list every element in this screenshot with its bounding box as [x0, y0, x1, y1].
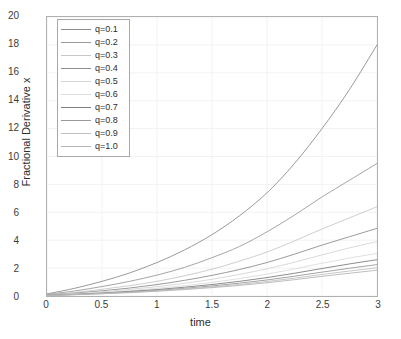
- figure: 02468101214161820 00.511.522.53 time Fra…: [0, 0, 401, 339]
- legend-label: q=0.6: [95, 90, 118, 99]
- x-tick-label: 0.5: [81, 300, 121, 310]
- legend-label: q=1.0: [95, 142, 118, 151]
- legend-line-swatch: [61, 120, 91, 121]
- x-axis-label: time: [0, 316, 401, 328]
- series-line-q06: [47, 253, 377, 295]
- legend-item[interactable]: q=0.1: [61, 23, 126, 36]
- x-tick-label: 1.5: [192, 300, 232, 310]
- legend-label: q=0.7: [95, 103, 118, 112]
- legend-item[interactable]: q=0.2: [61, 36, 126, 49]
- y-axis-label: Fractional Derivative x: [20, 42, 32, 222]
- y-tick-label: 18: [0, 39, 19, 49]
- legend-line-swatch: [61, 42, 91, 43]
- legend-label: q=0.3: [95, 51, 118, 60]
- x-tick-label: 2: [247, 300, 287, 310]
- legend-line-swatch: [61, 107, 91, 108]
- y-tick-label: 2: [0, 264, 19, 274]
- legend-label: q=0.1: [95, 25, 118, 34]
- legend-label: q=0.8: [95, 116, 118, 125]
- legend-item[interactable]: q=0.6: [61, 88, 126, 101]
- legend-item[interactable]: q=1.0: [61, 140, 126, 153]
- legend-line-swatch: [61, 29, 91, 30]
- legend-line-swatch: [61, 68, 91, 69]
- x-tick-label: 2.5: [303, 300, 343, 310]
- legend-line-swatch: [61, 81, 91, 82]
- series-line-q03: [47, 207, 377, 295]
- y-tick-label: 14: [0, 95, 19, 105]
- legend-line-swatch: [61, 55, 91, 56]
- y-tick-label: 10: [0, 152, 19, 162]
- legend-label: q=0.2: [95, 38, 118, 47]
- y-tick-label: 20: [0, 11, 19, 21]
- legend[interactable]: q=0.1q=0.2q=0.3q=0.4q=0.5q=0.6q=0.7q=0.8…: [57, 19, 130, 157]
- legend-line-swatch: [61, 146, 91, 147]
- legend-item[interactable]: q=0.7: [61, 101, 126, 114]
- series-line-q02: [47, 163, 377, 294]
- x-tick-label: 3: [358, 300, 398, 310]
- y-tick-label: 16: [0, 67, 19, 77]
- x-tick-label: 1: [137, 300, 177, 310]
- y-tick-label: 0: [0, 292, 19, 302]
- legend-label: q=0.5: [95, 77, 118, 86]
- x-tick-label: 0: [26, 300, 66, 310]
- legend-label: q=0.9: [95, 129, 118, 138]
- legend-item[interactable]: q=0.9: [61, 127, 126, 140]
- legend-line-swatch: [61, 94, 91, 95]
- y-tick-label: 8: [0, 180, 19, 190]
- legend-item[interactable]: q=0.8: [61, 114, 126, 127]
- legend-item[interactable]: q=0.3: [61, 49, 126, 62]
- legend-item[interactable]: q=0.4: [61, 62, 126, 75]
- y-tick-label: 12: [0, 123, 19, 133]
- legend-label: q=0.4: [95, 64, 118, 73]
- legend-line-swatch: [61, 133, 91, 134]
- y-tick-label: 4: [0, 236, 19, 246]
- y-tick-label: 6: [0, 208, 19, 218]
- legend-item[interactable]: q=0.5: [61, 75, 126, 88]
